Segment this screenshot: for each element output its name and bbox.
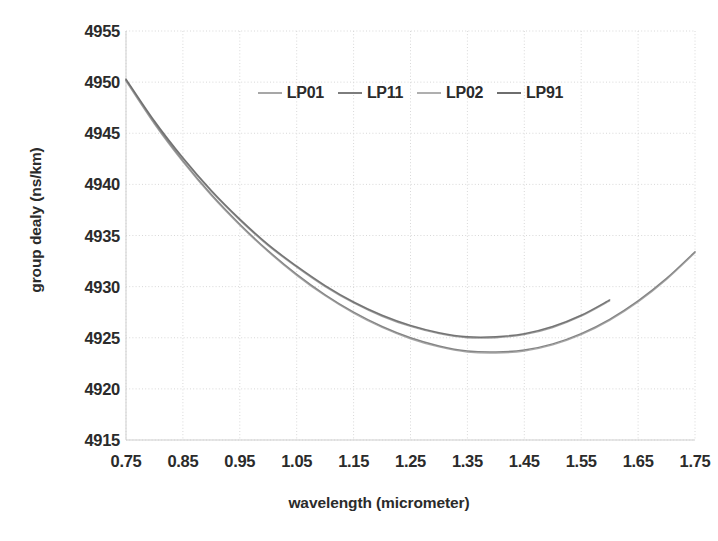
x-axis-tick-label: 1.25 <box>395 452 426 471</box>
x-axis-title-container: wavelength (micrometer) <box>0 494 718 512</box>
x-axis-tick-label: 1.05 <box>281 452 312 471</box>
x-axis-tick-label: 1.45 <box>509 452 540 471</box>
legend-item-lp01[interactable]: LP01 <box>258 84 324 102</box>
x-axis-tick-label: 0.85 <box>167 452 198 471</box>
legend-swatch-icon <box>338 92 362 94</box>
chart-legend: LP01LP11LP02LP91 <box>126 84 695 102</box>
group-delay-chart: group dealy (ns/km) 49554950494549404935… <box>0 0 718 541</box>
x-axis-title: wavelength (micrometer) <box>288 494 469 512</box>
legend-label: LP02 <box>446 84 483 102</box>
x-axis-tick-label: 1.55 <box>566 452 597 471</box>
legend-item-lp91[interactable]: LP91 <box>497 84 563 102</box>
x-axis-tick-label: 1.15 <box>338 452 369 471</box>
legend-label: LP91 <box>526 84 563 102</box>
series-line-lp01 <box>126 80 610 338</box>
legend-swatch-icon <box>417 92 441 93</box>
x-axis-tick-label: 1.75 <box>680 452 711 471</box>
x-axis-tick-label: 0.95 <box>224 452 255 471</box>
legend-label: LP01 <box>287 84 324 102</box>
x-axis-tick-label: 1.65 <box>623 452 654 471</box>
legend-swatch-icon <box>497 92 521 94</box>
x-axis-tick-label: 1.35 <box>452 452 483 471</box>
series-line-lp91 <box>126 79 610 337</box>
legend-swatch-icon <box>258 92 282 93</box>
x-axis-tick-label: 0.75 <box>111 452 142 471</box>
legend-item-lp11[interactable]: LP11 <box>338 84 403 102</box>
legend-item-lp02[interactable]: LP02 <box>417 84 483 102</box>
legend-label: LP11 <box>367 84 403 102</box>
